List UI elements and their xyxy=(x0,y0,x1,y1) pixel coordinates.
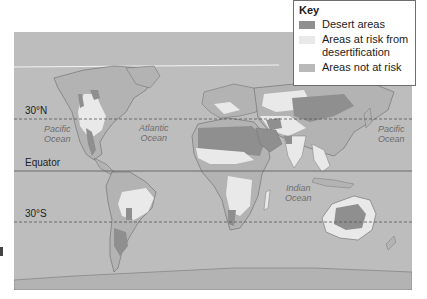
key-title: Key xyxy=(299,4,410,16)
ocean-label-pacific-west: Pacific Ocean xyxy=(44,124,71,144)
latitude-30n-label: 30°N xyxy=(25,105,47,116)
ocean-label-line: Indian xyxy=(285,183,312,193)
ocean-label-line: Atlantic xyxy=(139,123,169,133)
north-america xyxy=(54,66,160,174)
edge-mark xyxy=(0,247,3,256)
asia xyxy=(254,82,394,188)
key-item-desert: Desert areas xyxy=(299,18,410,31)
not-at-risk-swatch xyxy=(299,64,315,72)
latitude-30s-label: 30°S xyxy=(25,208,47,219)
key-item-at-risk: Areas at risk from desertification xyxy=(299,33,410,59)
key-label: Areas at risk from desertification xyxy=(322,33,408,59)
ocean-label-line: Ocean xyxy=(378,134,405,144)
map-key: Key Desert areas Areas at risk from dese… xyxy=(293,0,416,86)
ocean-label-atlantic: Atlantic Ocean xyxy=(139,123,169,143)
key-item-not-at-risk: Areas not at risk xyxy=(299,61,410,74)
ocean-label-line: Ocean xyxy=(285,193,312,203)
key-label: Areas not at risk xyxy=(322,61,401,74)
antarctica xyxy=(14,268,412,290)
key-label-line: desertification xyxy=(322,46,390,58)
ocean-label-line: Pacific xyxy=(378,124,405,134)
at-risk-swatch xyxy=(299,36,315,44)
ocean-label-line: Ocean xyxy=(44,134,71,144)
desert-swatch xyxy=(299,21,315,29)
ocean-label-indian: Indian Ocean xyxy=(285,183,312,203)
australia xyxy=(322,196,396,250)
equator-label: Equator xyxy=(25,157,60,168)
key-label: Desert areas xyxy=(322,18,385,31)
key-label-line: Areas at risk from xyxy=(322,33,408,45)
ocean-label-pacific-east: Pacific Ocean xyxy=(378,124,405,144)
ocean-label-line: Ocean xyxy=(139,133,169,143)
ocean-label-line: Pacific xyxy=(44,124,71,134)
